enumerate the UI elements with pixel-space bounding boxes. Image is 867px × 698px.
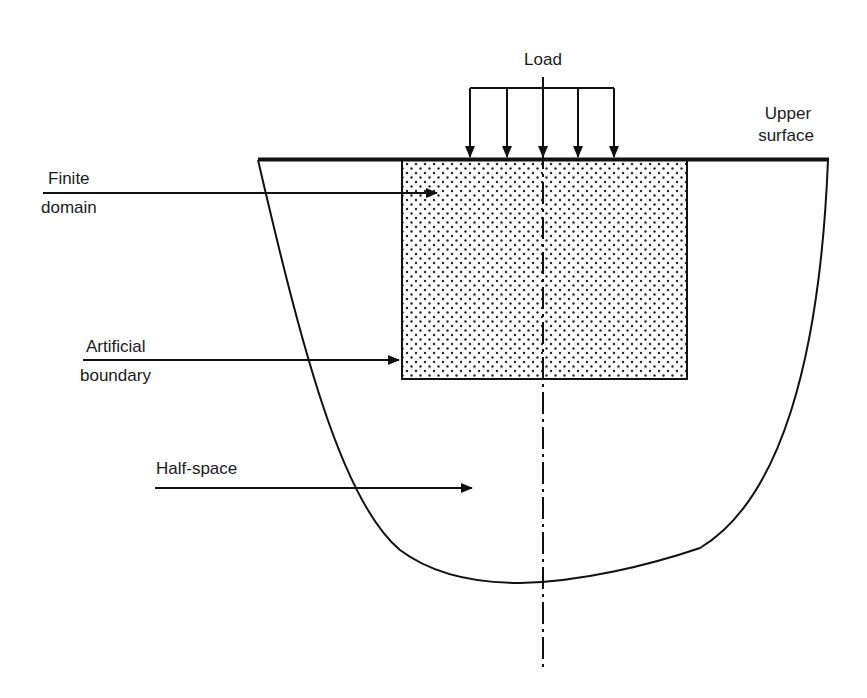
half-space-label: Half-space: [156, 459, 237, 478]
load-distribution: [470, 88, 614, 157]
artificial-boundary-label-line2: boundary: [80, 366, 151, 385]
finite-domain-region: [402, 160, 687, 379]
upper-surface-label-line1: Upper: [765, 104, 812, 123]
upper-surface-label-line2: surface: [758, 126, 814, 145]
load-label: Load: [524, 50, 562, 69]
artificial-boundary-label-line1: Artificial: [86, 337, 146, 356]
half-space-diagram: Load Upper surface Finite domain Artific…: [0, 0, 867, 698]
finite-domain-label-line1: Finite: [48, 169, 90, 188]
finite-domain-label-line2: domain: [41, 198, 97, 217]
